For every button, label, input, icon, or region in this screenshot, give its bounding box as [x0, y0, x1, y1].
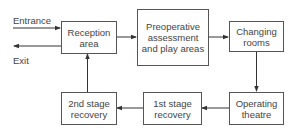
node-label: Reception area [66, 27, 112, 49]
node-operating-theatre: Operating theatre [229, 92, 284, 125]
node-label: Operating theatre [233, 98, 280, 120]
entrance-label: Entrance [13, 15, 51, 26]
node-second-stage-recovery: 2nd stage recovery [61, 92, 117, 125]
node-reception-area: Reception area [61, 21, 117, 54]
node-first-stage-recovery: 1st stage recovery [143, 92, 202, 125]
node-changing-rooms: Changing rooms [229, 21, 284, 52]
exit-label: Exit [13, 55, 29, 66]
node-label: Changing rooms [233, 26, 280, 48]
node-preoperative-assessment: Preoperative assessment and play areas [137, 9, 209, 66]
node-label: 1st stage recovery [148, 98, 197, 120]
node-label: Preoperative assessment and play areas [141, 21, 205, 54]
node-label: 2nd stage recovery [66, 98, 112, 120]
